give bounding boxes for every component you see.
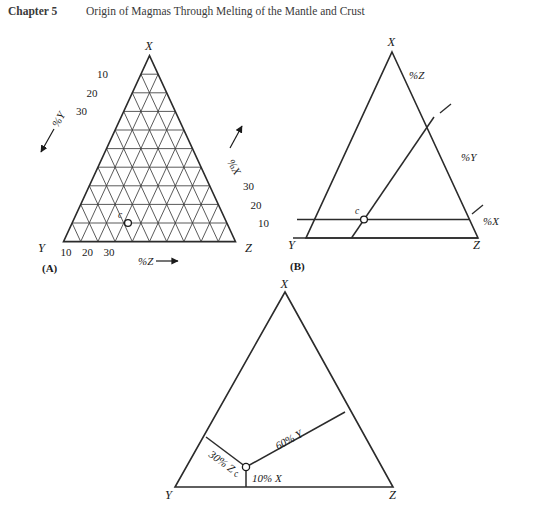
panel-a-right-vertex-label: Z — [245, 241, 253, 255]
panel-a-right-tick-20: 20 — [251, 199, 263, 211]
panel-a-caption: (A) — [42, 262, 58, 275]
panel-c-value-label-y: 60% Y — [273, 426, 306, 451]
figure-container: X Y Z 10 20 30 30 20 10 10 20 30 %Z %Y — [0, 0, 534, 507]
panel-c-point-label: c — [234, 469, 239, 479]
panel-a-axis-x-group: %X — [225, 126, 244, 178]
panel-c-value-label-x: 10% X — [252, 472, 283, 484]
panel-a-axis-label-y: %Y — [49, 108, 68, 129]
panel-b-caption: (B) — [290, 260, 305, 273]
panel-a-left-tick-30: 30 — [76, 105, 88, 117]
panel-a-left-tick-10: 10 — [97, 68, 109, 80]
panel-c-right-vertex-label: Z — [389, 488, 397, 502]
panel-a-axis-y-group: %Y — [41, 108, 68, 152]
figure-page: Chapter 5Origin of Magmas Through Meltin… — [0, 0, 534, 507]
panel-b-axis-label-x: %X — [483, 215, 500, 227]
panel-b-right-vertex-label: Z — [473, 238, 481, 252]
panel-a-bottom-tick-10: 10 — [61, 246, 73, 258]
panel-a-bottom-tick-20: 20 — [82, 246, 94, 258]
panel-a-left-tick-20: 20 — [87, 87, 99, 99]
panel-a: X Y Z 10 20 30 30 20 10 10 20 30 %Z %Y — [38, 39, 270, 275]
panel-c-point-c — [242, 463, 249, 470]
panel-a-axis-label-x: %X — [225, 157, 244, 178]
panel-a-point-label: c — [118, 210, 123, 220]
panel-a-grid — [72, 74, 227, 241]
panel-a-apex-label: X — [144, 39, 154, 53]
panel-b-axis-label-z: %Z — [409, 69, 425, 81]
panel-a-point-c — [125, 220, 132, 227]
panel-b-apex-label: X — [387, 35, 397, 49]
panel-a-axis-arrow-x — [230, 126, 242, 148]
panel-a-bottom-tick-30: 30 — [104, 246, 116, 258]
panel-b-triangle — [306, 52, 478, 238]
panel-b-tick-slash-z — [440, 104, 451, 113]
panel-a-right-tick-30: 30 — [243, 180, 255, 192]
panel-b-point-label: c — [355, 206, 360, 216]
panel-c-apex-label: X — [280, 277, 290, 291]
panel-b-left-vertex-label: Y — [288, 238, 297, 252]
panel-a-left-vertex-label: Y — [38, 241, 47, 255]
panel-a-axis-label-z: %Z — [138, 255, 154, 267]
panel-c-left-vertex-label: Y — [165, 488, 174, 502]
panel-b-axis-label-y: %Y — [461, 151, 478, 163]
panel-b: c X Y Z %Z %Y %X (B) — [288, 35, 500, 273]
figure-svg: X Y Z 10 20 30 30 20 10 10 20 30 %Z %Y — [0, 0, 534, 507]
panel-b-point-c — [361, 216, 368, 223]
panel-a-right-tick-10: 10 — [258, 217, 270, 229]
panel-b-tick-slash-x — [472, 205, 483, 214]
panel-c: c X Y Z 30% Z 60% Y 10% X — [165, 277, 397, 502]
panel-a-axis-arrow-y — [41, 129, 54, 152]
